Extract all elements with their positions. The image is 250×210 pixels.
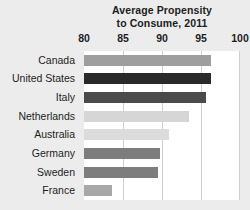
bar-row[interactable]: [84, 185, 240, 196]
bar-italy[interactable]: [84, 92, 206, 103]
x-axis-tick-90: 90: [156, 32, 168, 44]
category-label-netherlands: Netherlands: [0, 111, 75, 122]
x-axis-tick-95: 95: [195, 32, 207, 44]
plot-area: [84, 51, 240, 200]
x-axis-tick-80: 80: [78, 32, 90, 44]
bar-row[interactable]: [84, 55, 240, 66]
bar-row[interactable]: [84, 167, 240, 178]
chart-title: Average Propensity to Consume, 2011: [84, 4, 240, 29]
chart-title-line-1: Average Propensity: [84, 4, 240, 17]
category-label-united-states: United States: [0, 73, 75, 84]
bar-row[interactable]: [84, 148, 240, 159]
bar-australia[interactable]: [84, 129, 169, 140]
y-axis-category-labels: CanadaUnited StatesItalyNetherlandsAustr…: [0, 51, 80, 200]
category-label-france: France: [0, 185, 75, 196]
category-label-canada: Canada: [0, 55, 75, 66]
bar-germany[interactable]: [84, 148, 160, 159]
bar-france[interactable]: [84, 185, 112, 196]
x-axis-tick-labels: 80859095100: [0, 32, 250, 46]
bar-netherlands[interactable]: [84, 111, 189, 122]
bar-row[interactable]: [84, 111, 240, 122]
category-label-germany: Germany: [0, 148, 75, 159]
bar-united-states[interactable]: [84, 73, 211, 84]
category-label-sweden: Sweden: [0, 167, 75, 178]
bar-row[interactable]: [84, 129, 240, 140]
x-axis-tick-100: 100: [231, 32, 249, 44]
bar-canada[interactable]: [84, 55, 211, 66]
bar-sweden[interactable]: [84, 167, 158, 178]
bar-row[interactable]: [84, 92, 240, 103]
category-label-australia: Australia: [0, 129, 75, 140]
x-axis-tick-85: 85: [117, 32, 129, 44]
chart-container: Average Propensity to Consume, 2011 8085…: [0, 0, 250, 210]
bar-row[interactable]: [84, 73, 240, 84]
chart-title-line-2: to Consume, 2011: [84, 17, 240, 30]
bars-layer: [84, 51, 240, 200]
category-label-italy: Italy: [0, 92, 75, 103]
